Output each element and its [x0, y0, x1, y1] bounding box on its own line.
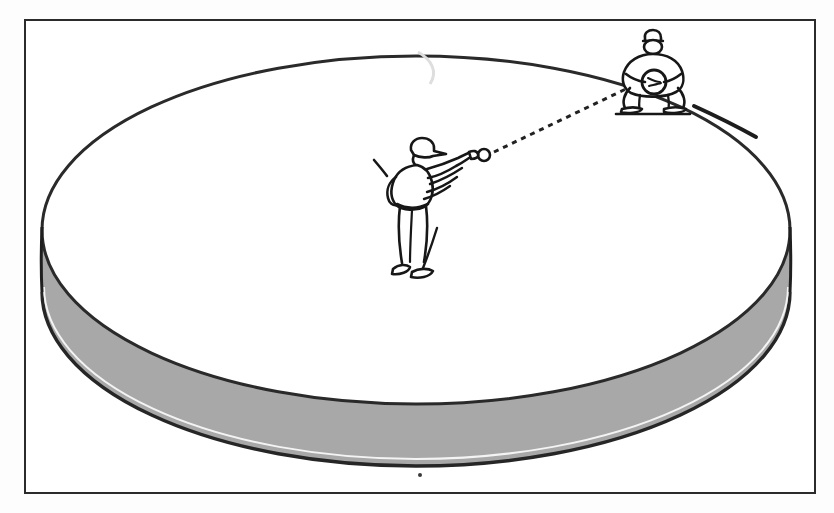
disc-platform	[41, 56, 791, 466]
thrown-ball	[478, 149, 490, 161]
illustration-canvas: Two figures playing catch on a large fla…	[0, 0, 834, 513]
catcher-foot-left	[621, 108, 642, 114]
scene-drawing	[0, 0, 834, 513]
disc-rim-left-cap	[41, 227, 42, 292]
thrower-hand	[469, 151, 478, 159]
disc-rim-right-cap	[790, 227, 791, 292]
catcher-foot-right	[664, 108, 686, 114]
catcher-head	[644, 40, 662, 54]
ink-speck	[418, 473, 422, 477]
